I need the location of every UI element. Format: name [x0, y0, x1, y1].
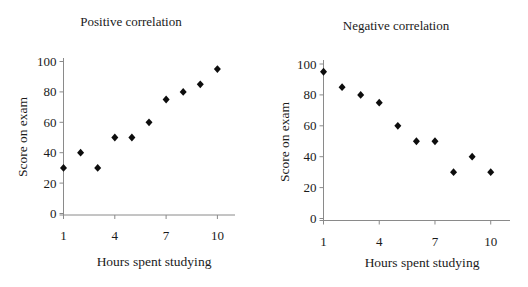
plot-area-negative: 02040608010014710 — [264, 0, 528, 287]
data-point-marker — [128, 134, 135, 142]
y-tick-label: 40 — [44, 145, 57, 160]
y-tick-label: 0 — [310, 211, 317, 226]
data-point-marker — [77, 149, 84, 157]
data-point-marker — [163, 96, 170, 104]
plot-area-positive: 02040608010014710 — [0, 0, 264, 287]
y-tick-label: 80 — [304, 87, 317, 102]
data-point-marker — [431, 137, 438, 145]
data-point-marker — [60, 164, 67, 172]
data-point-marker — [146, 118, 153, 126]
x-tick-label: 7 — [432, 234, 439, 249]
x-tick-label: 1 — [320, 234, 327, 249]
y-tick-label: 100 — [297, 57, 317, 72]
x-tick-label: 10 — [211, 228, 224, 243]
x-tick-label: 4 — [112, 228, 119, 243]
y-tick-label: 60 — [44, 115, 57, 130]
x-tick-label: 10 — [484, 234, 497, 249]
data-point-marker — [376, 99, 383, 107]
y-tick-label: 20 — [44, 176, 57, 191]
data-point-marker — [111, 134, 118, 142]
y-tick-label: 0 — [50, 206, 57, 221]
data-point-marker — [197, 80, 204, 88]
data-point-marker — [450, 168, 457, 176]
y-tick-label: 60 — [304, 118, 317, 133]
y-tick-label: 100 — [37, 54, 57, 69]
data-point-marker — [180, 88, 187, 96]
data-point-marker — [339, 83, 346, 91]
scatter-figure: Positive correlation Score on exam Hours… — [0, 0, 528, 287]
y-tick-label: 80 — [44, 84, 57, 99]
x-tick-label: 4 — [376, 234, 383, 249]
data-point-marker — [357, 91, 364, 99]
data-point-marker — [394, 122, 401, 130]
data-point-marker — [214, 65, 221, 73]
data-point-marker — [413, 137, 420, 145]
y-tick-label: 20 — [304, 180, 317, 195]
y-tick-label: 40 — [304, 149, 317, 164]
x-tick-label: 1 — [60, 228, 67, 243]
x-tick-label: 7 — [163, 228, 170, 243]
data-point-marker — [320, 68, 327, 76]
data-point-marker — [94, 164, 101, 172]
data-point-marker — [469, 153, 476, 161]
data-point-marker — [487, 168, 494, 176]
